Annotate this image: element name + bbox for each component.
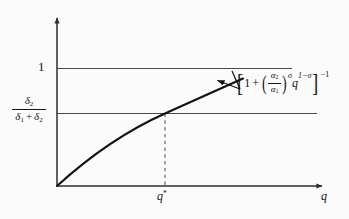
y-tick-label-delta-ratio: δ2 δ1+δ2 bbox=[5, 95, 53, 123]
qstar-asterisk: * bbox=[163, 189, 167, 198]
delta-fraction-numerator: δ2 bbox=[12, 95, 46, 110]
alpha-num-subscript: 2 bbox=[276, 75, 279, 81]
alpha-fraction-numerator: α2 bbox=[268, 71, 282, 83]
alpha-fraction-denominator: α1 bbox=[268, 84, 282, 95]
alpha-den-subscript: 1 bbox=[276, 88, 279, 94]
outer-exponent: −1 bbox=[321, 71, 330, 79]
x-axis-label-text: q bbox=[321, 189, 327, 203]
formula-q-exponent: 1−σ bbox=[298, 72, 311, 80]
x-axis-label: q bbox=[321, 190, 327, 202]
delta-fraction: δ2 δ1+δ2 bbox=[12, 95, 46, 123]
y-tick-label-one: 1 bbox=[38, 60, 45, 73]
figure-container: 1 δ2 δ1+δ2 q* q [ 1 + ( α2 α1 ) σ q 1−σ … bbox=[0, 0, 349, 219]
delta-den2-subscript: 2 bbox=[39, 115, 43, 123]
curve-formula-annotation: [ 1 + ( α2 α1 ) σ q 1−σ ] −1 bbox=[236, 70, 328, 96]
sigma-exponent: σ bbox=[288, 72, 292, 80]
x-tick-label-qstar: q* bbox=[157, 190, 167, 202]
formula-plus: + bbox=[250, 77, 261, 89]
curve-series bbox=[57, 79, 243, 187]
alpha-fraction: α2 α1 bbox=[268, 71, 282, 94]
delta-fraction-denominator: δ1+δ2 bbox=[12, 110, 46, 124]
delta-num-subscript: 2 bbox=[30, 100, 34, 108]
plus-sign-denominator: + bbox=[24, 110, 34, 122]
